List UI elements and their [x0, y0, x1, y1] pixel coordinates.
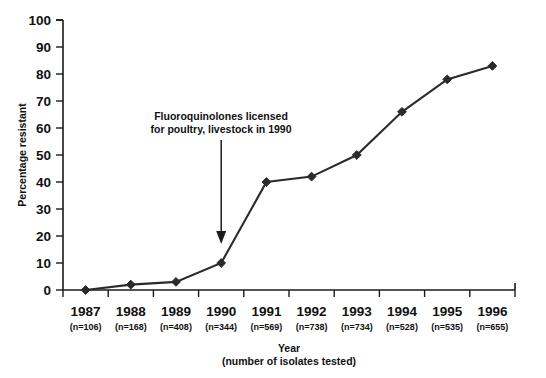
x-tick-year: 1995 — [432, 304, 463, 319]
x-tick-sample-size: (n=535) — [431, 322, 463, 332]
x-axis-subtitle: (number of isolates tested) — [222, 355, 356, 367]
x-tick-year: 1990 — [206, 304, 236, 319]
x-tick-sample-size: (n=408) — [160, 322, 192, 332]
y-axis-title: Percentage resistant — [16, 103, 28, 207]
x-tick-sample-size: (n=344) — [205, 322, 237, 332]
annotation-line-2: for poultry, livestock in 1990 — [150, 123, 291, 135]
y-tick-label: 0 — [43, 283, 51, 298]
x-tick-sample-size: (n=655) — [477, 322, 509, 332]
y-tick-label: 70 — [36, 94, 51, 109]
y-tick-label: 60 — [36, 121, 51, 136]
y-tick-label: 10 — [36, 256, 51, 271]
x-tick-year: 1991 — [251, 304, 282, 319]
x-axis-title: Year — [278, 342, 300, 354]
chart-canvas: 100 90 80 70 60 50 40 30 20 10 0 — [0, 0, 546, 378]
annotation-line-1: Fluoroquinolones licensed — [154, 110, 288, 122]
y-tick-label: 80 — [36, 67, 51, 82]
resistance-trend-chart: 100 90 80 70 60 50 40 30 20 10 0 — [0, 0, 546, 378]
x-tick-sample-size: (n=734) — [341, 322, 373, 332]
x-tick-year: 1989 — [161, 304, 191, 319]
y-tick-label: 20 — [36, 229, 51, 244]
x-tick-sample-size: (n=569) — [251, 322, 283, 332]
x-tick-sample-size: (n=106) — [70, 322, 102, 332]
x-tick-year: 1994 — [387, 304, 418, 319]
x-tick-sample-size: (n=738) — [296, 322, 328, 332]
x-tick-year: 1992 — [297, 304, 327, 319]
x-tick-sample-size: (n=168) — [115, 322, 147, 332]
y-tick-label: 90 — [36, 40, 51, 55]
y-tick-label: 50 — [36, 148, 51, 163]
y-tick-label: 100 — [28, 13, 51, 28]
x-tick-year: 1988 — [116, 304, 147, 319]
x-tick-year: 1987 — [71, 304, 101, 319]
x-tick-year: 1996 — [477, 304, 508, 319]
y-tick-label: 30 — [36, 202, 51, 217]
x-tick-sample-size: (n=528) — [386, 322, 418, 332]
x-tick-year: 1993 — [342, 304, 373, 319]
y-tick-label: 40 — [36, 175, 51, 190]
